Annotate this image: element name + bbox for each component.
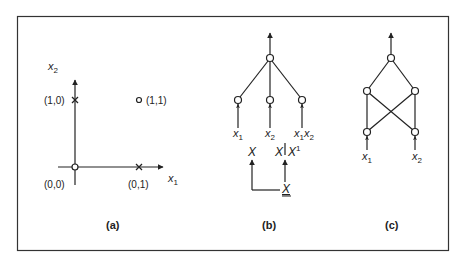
y-axis-label: x2: [47, 60, 59, 75]
point-label: (1,1): [146, 95, 167, 106]
input-label: x2: [411, 150, 423, 165]
input-label: x1: [232, 127, 244, 142]
hidden-node: [364, 88, 371, 95]
lower-left-label: X: [247, 145, 257, 159]
input-label: x2: [264, 127, 276, 142]
output-node: [267, 55, 274, 62]
point-label: (0,1): [128, 179, 149, 190]
input-node: [364, 129, 371, 136]
hidden-node: [267, 97, 274, 104]
point-label: (0,0): [44, 179, 65, 190]
panel-c-network: [364, 33, 419, 150]
x-axis-label: x1: [167, 172, 179, 187]
hidden-node: [299, 97, 306, 104]
output-node: [388, 55, 395, 62]
input-label: x1: [361, 150, 373, 165]
input-node: [412, 129, 419, 136]
input-label: x1x2: [293, 127, 314, 142]
point-label: (1,0): [44, 95, 65, 106]
lower-right-label2: X1: [287, 144, 301, 159]
caption-b: (b): [262, 219, 276, 231]
lower-bottom-label: X: [281, 182, 291, 196]
lower-right-label: X: [274, 145, 284, 159]
figure: x2 x1 (1,0) (1,1) (0,0) (0,1) (a) x1 x2 …: [0, 0, 463, 261]
caption-c: (c): [385, 219, 399, 231]
caption-a: (a): [106, 219, 120, 231]
hidden-node: [235, 97, 242, 104]
hidden-node: [412, 88, 419, 95]
point-0-0-circle: [72, 164, 78, 170]
panel-b-network: [235, 33, 306, 128]
point-1-1-circle: [137, 98, 142, 103]
